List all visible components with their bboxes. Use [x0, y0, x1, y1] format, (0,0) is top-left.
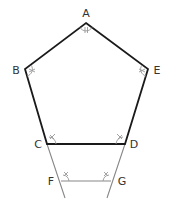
line-d-g-extension	[107, 144, 125, 198]
angle-marks	[27, 27, 146, 181]
angle-arc-a	[80, 28, 92, 31]
label-e: E	[154, 64, 161, 77]
pentagon-abcde	[25, 23, 148, 144]
line-c-f-extension	[47, 144, 65, 198]
label-b: B	[12, 64, 20, 77]
label-c: C	[34, 138, 42, 151]
label-g: G	[118, 175, 127, 188]
label-f: F	[48, 175, 54, 188]
label-a: A	[82, 7, 90, 20]
pentagon-diagram: A B E C D F G	[0, 0, 174, 220]
label-d: D	[130, 138, 138, 151]
